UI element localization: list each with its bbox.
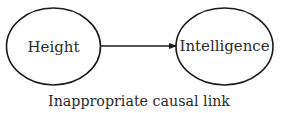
node-height: Height [7,8,101,85]
height-label: Height [27,38,79,56]
intelligence-label: Intelligence [180,37,270,55]
causal-diagram: Height Intelligence Inappropriate causal… [0,0,283,113]
diagram-caption: Inappropriate causal link [48,93,230,109]
node-intelligence: Intelligence [176,8,273,85]
